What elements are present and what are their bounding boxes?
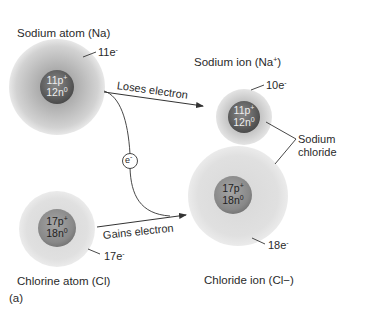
sodium-ion-title: Sodium ion (Na+) xyxy=(194,57,281,69)
electron-transfer-curve-top xyxy=(104,91,130,154)
sodium-chloride-bracket xyxy=(266,122,296,164)
sodium-ion-electron-count: 10e- xyxy=(266,80,287,91)
sodium-atom-electron-count: 11e- xyxy=(98,47,118,58)
figure-label: (a) xyxy=(9,293,23,305)
sodium-atom-nucleus-label: 11p+ 12n0 xyxy=(40,74,74,98)
chlorine-atom-title: Chlorine atom (Cl) xyxy=(17,276,110,288)
sodium-ion-nucleus-label: 11p+ 12n0 xyxy=(227,104,261,128)
chloride-ion-title: Chloride ion (Cl−) xyxy=(204,275,294,287)
sodium-ion-electron-pointer xyxy=(251,85,264,90)
electron-transfer-curve-bottom xyxy=(130,168,170,216)
chloride-ion-nucleus-label: 17p+ 18n0 xyxy=(216,182,250,206)
chlorine-atom-nucleus-label: 17p+ 18n0 xyxy=(40,215,74,239)
sodium-atom-title: Sodium atom (Na) xyxy=(17,28,110,40)
electron-token-label: e- xyxy=(125,156,132,165)
chlorine-atom-electron-pointer xyxy=(88,249,100,254)
chlorine-atom-electron-count: 17e- xyxy=(104,251,125,262)
sodium-chloride-label: Sodium chloride xyxy=(298,133,337,159)
chloride-ion-electron-count: 18e- xyxy=(268,240,289,251)
